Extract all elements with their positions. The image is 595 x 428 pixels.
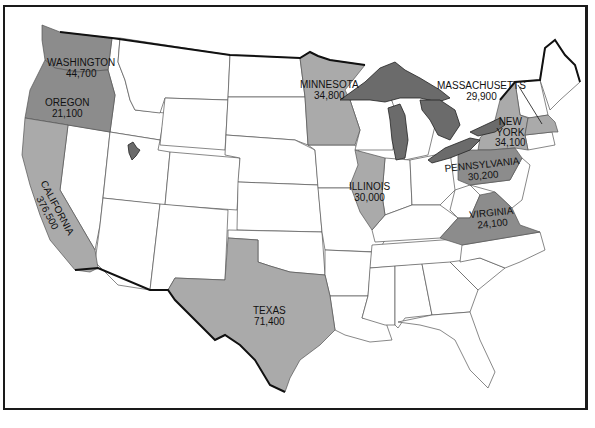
label-texas: TEXAS 71,400 [253,306,286,327]
label-washington: WASHINGTON 44,700 [47,58,115,79]
label-massachusetts: MASSACHUSETTS 29,900 [437,81,526,102]
state-north-dakota [228,55,305,97]
state-value: 21,100 [45,109,89,120]
state-name: TEXAS [253,306,286,317]
state-value: 30,000 [349,193,390,204]
state-name: MASSACHUSETTS [437,81,526,92]
label-illinois: ILLINOIS 30,000 [349,182,390,203]
state-name: ILLINOIS [349,182,390,193]
state-name-line: NEW [495,117,526,128]
state-value: 44,700 [47,69,115,80]
label-oregon: OREGON 21,100 [45,98,89,119]
state-name: OREGON [45,98,89,109]
state-colorado [165,152,240,210]
state-value: 29,900 [437,92,526,103]
state-arizona [95,198,160,290]
state-wyoming [160,98,228,150]
state-value: 34,800 [300,91,359,102]
state-florida [398,312,495,388]
state-value: 34,100 [495,138,526,149]
state-name: WASHINGTON [47,58,115,69]
state-new-mexico [150,204,228,290]
state-value: 71,400 [253,317,286,328]
label-new-york: NEW YORK 34,100 [495,117,526,149]
state-maine [540,40,580,110]
state-kansas [237,182,322,232]
label-minnesota: MINNESOTA 34,800 [300,80,359,101]
state-massachusetts [525,115,558,135]
state-name: MINNESOTA [300,80,359,91]
state-arkansas [325,250,372,296]
